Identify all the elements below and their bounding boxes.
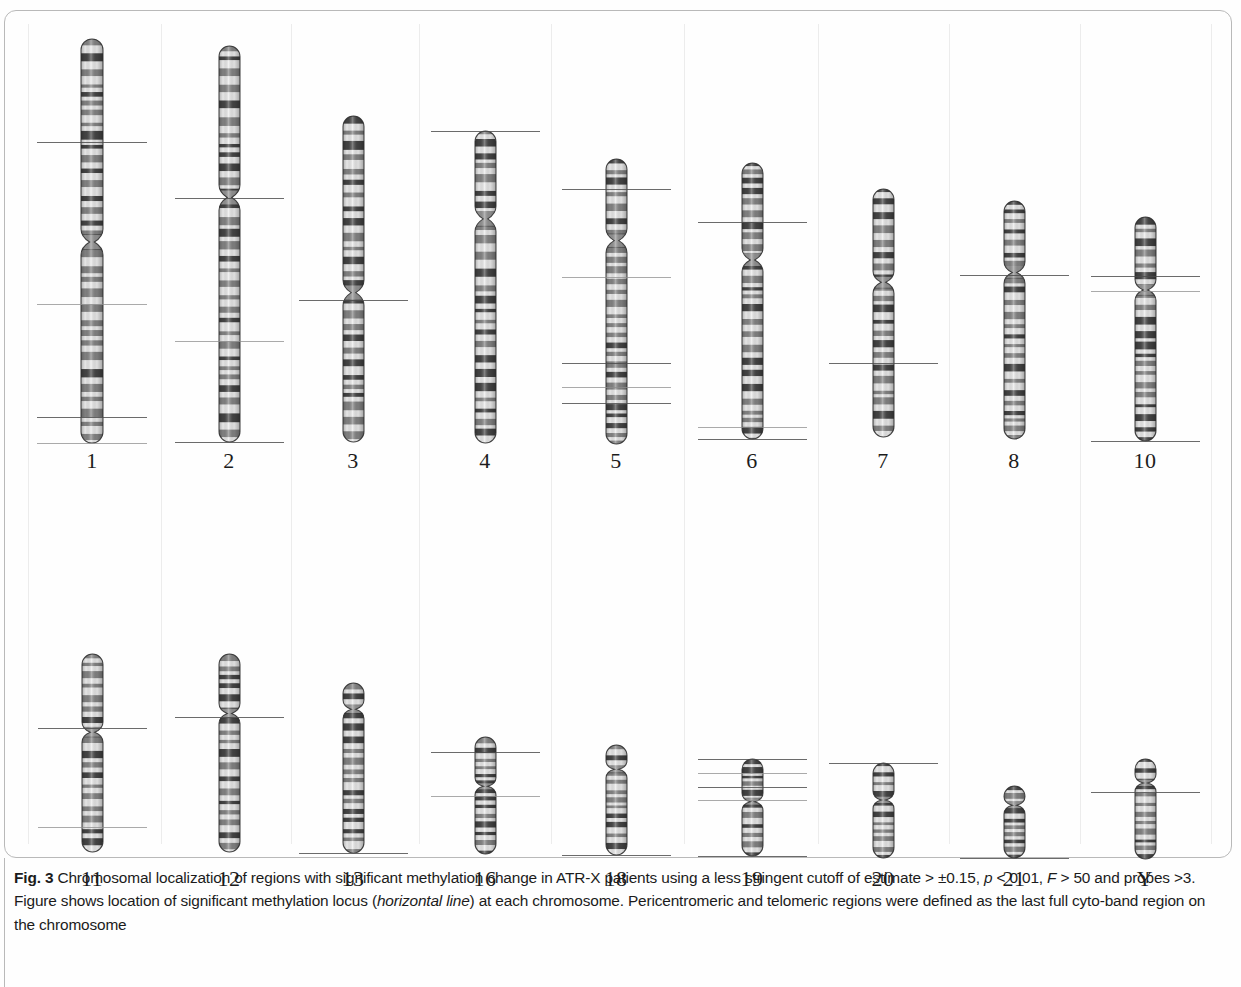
panel-divider: [161, 24, 162, 844]
methylation-marker-line: [1091, 291, 1200, 292]
chromosome-ideogram-6: [682, 162, 823, 442]
caption-horizontal-line-term: horizontal line: [377, 892, 470, 909]
chromosome-20: 20: [813, 762, 954, 861]
methylation-marker-line: [175, 198, 284, 199]
chromosome-13: 13: [283, 682, 424, 856]
methylation-marker-line: [698, 856, 807, 857]
chromosome-ideogram-20: [813, 762, 954, 861]
panel-divider: [419, 24, 420, 844]
methylation-marker-line: [175, 442, 284, 443]
methylation-marker-line: [698, 427, 807, 428]
chromosome-ideogram-4: [415, 130, 556, 446]
chromosome-ideogram-7: [813, 188, 954, 440]
chromosome-ideogram-18: [546, 744, 687, 858]
chromosome-label-1: 1: [21, 448, 163, 474]
chromosome-11: 11: [22, 653, 163, 855]
methylation-marker-line: [1091, 276, 1200, 277]
chromosome-7: 7: [813, 188, 954, 440]
methylation-marker-line: [829, 763, 938, 764]
chromosome-18: 18: [546, 744, 687, 858]
chromosome-label-7: 7: [813, 448, 954, 474]
chromosome-ideogram-10: [1075, 216, 1216, 444]
chromosome-ideogram-3: [283, 115, 424, 445]
chromosome-label-5: 5: [546, 448, 687, 474]
methylation-marker-line: [431, 752, 540, 753]
methylation-marker-line: [1091, 441, 1200, 442]
figure-left-edge-rule: [4, 858, 5, 987]
methylation-marker-line: [562, 277, 671, 278]
methylation-marker-line: [698, 787, 807, 788]
methylation-marker-line: [37, 142, 147, 143]
chromosome-plot-area: 12345678101112131618192021Y: [4, 10, 1232, 858]
chromosome-21: 21: [944, 785, 1085, 861]
caption-sentence-2a: < 0.01,: [992, 869, 1047, 886]
methylation-marker-line: [960, 275, 1069, 276]
methylation-marker-line: [1091, 792, 1200, 793]
chromosome-3: 3: [283, 115, 424, 445]
caption-f-symbol: F: [1047, 869, 1056, 886]
chromosome-8: 8: [944, 200, 1085, 442]
methylation-marker-line: [37, 417, 147, 418]
caption-sentence-2c: ) at each chromosome. Pericentromeric an…: [470, 892, 763, 909]
methylation-marker-line: [38, 728, 147, 729]
chromosome-ideogram-12: [159, 653, 300, 855]
methylation-marker-line: [562, 855, 671, 856]
chromosome-ideogram-11: [22, 653, 163, 855]
panel-divider: [551, 24, 552, 844]
methylation-marker-line: [562, 387, 671, 388]
methylation-marker-line: [960, 858, 1069, 859]
chromosome-12: 12: [159, 653, 300, 855]
chromosome-6: 6: [682, 162, 823, 442]
methylation-marker-line: [38, 827, 147, 828]
figure-root: 12345678101112131618192021Y Fig. 3 Chrom…: [0, 0, 1241, 987]
methylation-marker-line: [698, 800, 807, 801]
chromosome-ideogram-1: [21, 38, 163, 446]
chromosome-19: 19: [682, 758, 823, 859]
methylation-marker-line: [299, 300, 408, 301]
panel-divider: [949, 24, 950, 844]
panel-divider: [684, 24, 685, 844]
chromosome-label-8: 8: [944, 448, 1085, 474]
panel-divider: [818, 24, 819, 844]
chromosome-ideogram-Y: [1075, 758, 1216, 862]
chromosome-label-6: 6: [682, 448, 823, 474]
chromosome-ideogram-5: [546, 158, 687, 447]
methylation-marker-line: [37, 304, 147, 305]
panel-divider: [1211, 24, 1212, 844]
chromosome-ideogram-13: [283, 682, 424, 856]
methylation-marker-line: [175, 341, 284, 342]
chromosome-ideogram-2: [159, 45, 300, 445]
methylation-marker-line: [562, 363, 671, 364]
methylation-marker-line: [829, 363, 938, 364]
methylation-marker-line: [431, 796, 540, 797]
chromosome-ideogram-21: [944, 785, 1085, 861]
methylation-marker-line: [175, 717, 284, 718]
methylation-marker-line: [299, 853, 408, 854]
methylation-marker-line: [698, 759, 807, 760]
chromosome-ideogram-8: [944, 200, 1085, 442]
chromosome-1: 1: [21, 38, 163, 446]
chromosome-label-3: 3: [283, 448, 424, 474]
chromosome-label-2: 2: [159, 448, 300, 474]
chromosome-Y: Y: [1075, 758, 1216, 862]
methylation-marker-line: [698, 222, 807, 223]
chromosome-label-10: 10: [1075, 448, 1216, 474]
chromosome-16: 16: [415, 736, 556, 857]
methylation-marker-line: [431, 131, 540, 132]
methylation-marker-line: [698, 439, 807, 440]
panel-divider: [1080, 24, 1081, 844]
methylation-marker-line: [698, 773, 807, 774]
figure-caption: Fig. 3 Chromosomal localization of regio…: [14, 866, 1226, 936]
panel-divider: [291, 24, 292, 844]
methylation-marker-line: [562, 403, 671, 404]
chromosome-ideogram-19: [682, 758, 823, 859]
chromosome-label-4: 4: [415, 448, 556, 474]
methylation-marker-line: [37, 443, 147, 444]
chromosome-10: 10: [1075, 216, 1216, 444]
caption-sentence-1: Chromosomal localization of regions with…: [57, 869, 979, 886]
chromosome-ideogram-16: [415, 736, 556, 857]
methylation-marker-line: [562, 189, 671, 190]
chromosome-4: 4: [415, 130, 556, 446]
chromosome-5: 5: [546, 158, 687, 447]
chromosome-2: 2: [159, 45, 300, 445]
